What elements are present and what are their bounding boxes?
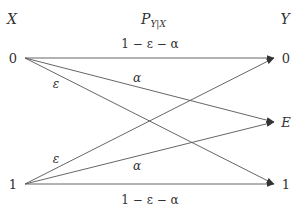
channel-diagram: X PY|X Y 0 1 0 E 1 1 − ε − α α ε ε α 1 −… — [0, 0, 304, 212]
channel-label-main: P — [140, 11, 151, 27]
output-variable-label: Y — [280, 11, 291, 27]
output-node-1: 1 — [282, 177, 290, 192]
edge-label-x0-y0: 1 − ε − α — [121, 37, 178, 51]
channel-label: PY|X — [140, 11, 166, 30]
channel-label-subscript: Y|X — [150, 19, 166, 30]
edge-x0-yE — [25, 58, 274, 122]
input-variable-label: X — [6, 11, 18, 27]
edge-x1-yE — [25, 122, 274, 184]
input-node-1: 1 — [9, 177, 17, 192]
edge-label-x1-y0: ε — [53, 152, 59, 166]
output-node-erasure: E — [280, 115, 291, 130]
edge-label-x1-y1: 1 − ε − α — [121, 193, 178, 207]
output-node-0: 0 — [282, 51, 290, 66]
edge-label-x0-y1: ε — [53, 77, 59, 91]
edge-label-x1-yE: α — [133, 159, 141, 173]
edge-label-x0-yE: α — [133, 71, 141, 85]
input-node-0: 0 — [9, 51, 17, 66]
